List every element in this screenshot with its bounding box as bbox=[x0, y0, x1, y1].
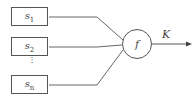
arrow-head-icon bbox=[186, 42, 192, 47]
wire-input-n bbox=[49, 50, 123, 85]
wire-input-2 bbox=[49, 45, 122, 47]
vertical-ellipsis: ⋮ bbox=[28, 58, 36, 62]
input-box-2: s2 bbox=[11, 37, 48, 56]
input-box-n: sn bbox=[11, 75, 48, 94]
input-box-1: s1 bbox=[11, 7, 48, 26]
input-label-2: s2 bbox=[25, 40, 35, 54]
input-label-n: sn bbox=[25, 78, 35, 92]
function-node: f bbox=[122, 29, 152, 59]
function-label: f bbox=[135, 38, 139, 51]
input-label-1: s1 bbox=[25, 10, 35, 24]
wire-input-1 bbox=[49, 17, 123, 40]
output-label: K bbox=[162, 28, 170, 41]
